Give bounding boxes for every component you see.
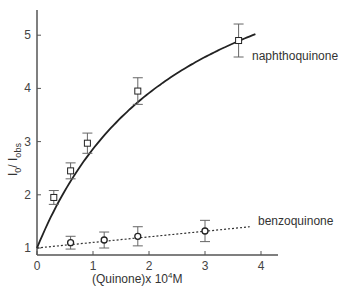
x-tick-label: 4	[258, 259, 265, 273]
square-marker-icon	[68, 168, 74, 174]
square-marker-icon	[51, 194, 57, 200]
data-point	[49, 191, 59, 205]
naphthoquinone-fit-line	[37, 34, 255, 248]
data-point	[200, 220, 210, 241]
x-tick-label: 3	[202, 259, 209, 273]
square-marker-icon	[236, 38, 242, 44]
circle-marker-icon	[101, 237, 107, 243]
plot-area	[37, 24, 255, 249]
y-tick-label: 4	[24, 81, 31, 95]
x-tick-label: 0	[34, 259, 41, 273]
circle-marker-icon	[68, 240, 74, 246]
data-point	[66, 236, 76, 249]
data-point	[99, 232, 109, 248]
series-label-naphthoquinone: naphthoquinone	[252, 49, 338, 63]
labels: naphthoquinone benzoquinone (Quinone)x 1…	[6, 49, 338, 286]
y-tick-label: 3	[24, 135, 31, 149]
y-tick-label: 1	[24, 241, 31, 255]
x-axis-label: (Quinone)x 104M	[92, 271, 183, 286]
circle-marker-icon	[135, 233, 141, 239]
x-tick-label: 2	[146, 259, 153, 273]
square-marker-icon	[135, 88, 141, 94]
axes: 1234501234	[24, 10, 278, 273]
series-label-benzoquinone: benzoquinone	[258, 214, 334, 228]
data-point	[234, 24, 244, 57]
y-tick-label: 2	[24, 188, 31, 202]
y-axis-label: I0/ Iobs	[6, 143, 23, 176]
x-tick-label: 1	[90, 259, 97, 273]
circle-marker-icon	[202, 228, 208, 234]
square-marker-icon	[84, 140, 90, 146]
chart: 1234501234 naphthoquinone benzoquinone (…	[0, 0, 343, 300]
data-point	[133, 227, 143, 246]
y-tick-label: 5	[24, 28, 31, 42]
